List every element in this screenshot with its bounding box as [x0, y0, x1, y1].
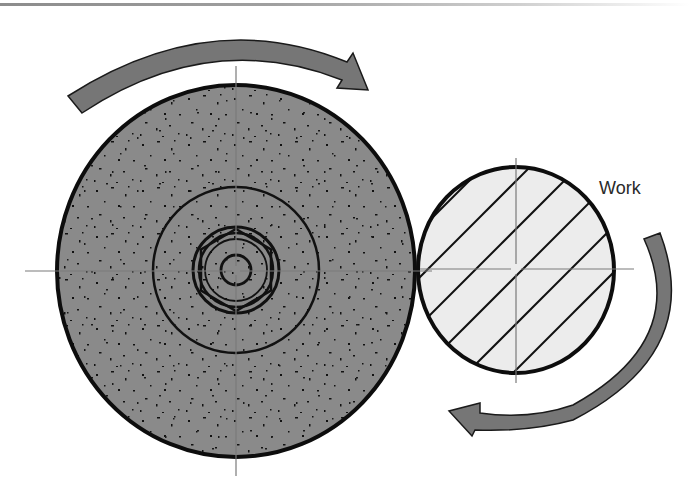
- grinding-diagram: [0, 0, 690, 483]
- work-label: Work: [599, 179, 641, 197]
